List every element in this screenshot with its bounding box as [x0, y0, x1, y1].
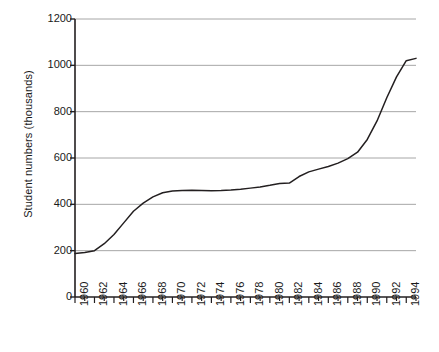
x-tick-label: 1964 — [118, 282, 129, 306]
x-tick-label: 1984 — [313, 282, 324, 306]
x-tick-label: 1994 — [410, 282, 421, 306]
x-tick-label: 1980 — [274, 282, 285, 306]
x-tick-label: 1968 — [157, 282, 168, 306]
x-tick-label: 1962 — [98, 282, 109, 306]
x-tick-label: 1992 — [391, 282, 402, 306]
x-tick-label: 1990 — [371, 282, 382, 306]
x-tick-label: 1974 — [215, 282, 226, 306]
x-tick-label: 1986 — [332, 282, 343, 306]
x-tick-label: 1972 — [196, 282, 207, 306]
x-axis-tick-labels: 1960196219641966196819701972197419761978… — [0, 0, 439, 352]
x-tick-label: 1978 — [254, 282, 265, 306]
x-tick-label: 1960 — [79, 282, 90, 306]
x-tick-label: 1970 — [176, 282, 187, 306]
chart-figure: Student numbers (thousands) 020040060080… — [0, 0, 439, 352]
x-tick-label: 1976 — [235, 282, 246, 306]
x-tick-label: 1988 — [352, 282, 363, 306]
x-tick-label: 1966 — [137, 282, 148, 306]
x-tick-label: 1982 — [293, 282, 304, 306]
